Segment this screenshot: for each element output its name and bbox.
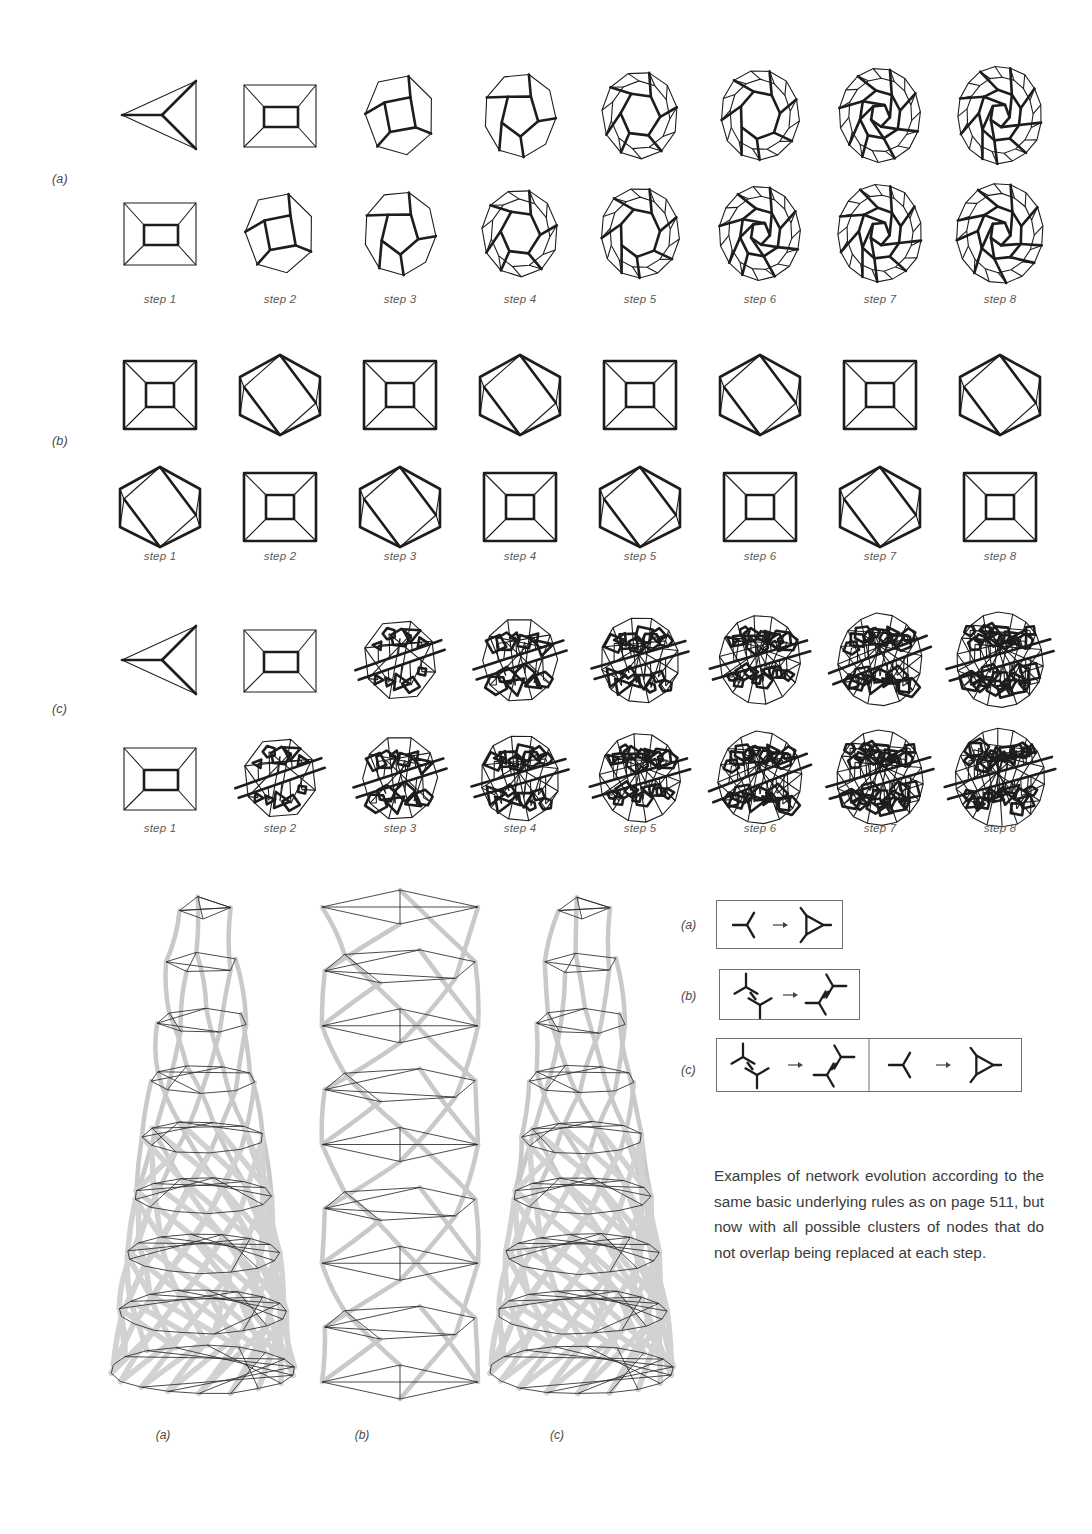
step-label: step 3 [340, 550, 460, 562]
rule-label-b: (b) [681, 989, 696, 1003]
network-cell [940, 173, 1060, 293]
step-label: step 8 [940, 550, 1060, 562]
column-label-b: (b) [322, 1428, 402, 1442]
step-label: step 5 [580, 293, 700, 305]
network-cell [820, 600, 940, 720]
evolution-row-b: step 1step 2step 3step 4step 5step 6step… [100, 335, 1060, 565]
evolution-row-a: step 1step 2step 3step 4step 5step 6step… [100, 55, 1060, 295]
step-label: step 2 [220, 550, 340, 562]
row-label-a: (a) [52, 172, 68, 186]
step-label: step 5 [580, 822, 700, 834]
network-cell [820, 335, 940, 455]
network-cell [340, 600, 460, 720]
step-labels-c: step 1step 2step 3step 4step 5step 6step… [100, 822, 1060, 838]
step-label: step 4 [460, 293, 580, 305]
network-cell [700, 718, 820, 838]
network-cell [460, 173, 580, 293]
network-cell [460, 335, 580, 455]
step-label: step 6 [700, 550, 820, 562]
network-cell [220, 600, 340, 720]
network-cell [700, 335, 820, 455]
network-cell [700, 173, 820, 293]
network-cell [940, 447, 1060, 567]
network-cell [220, 55, 340, 175]
network-cell [340, 55, 460, 175]
network-cell [100, 718, 220, 838]
network-cell [220, 447, 340, 567]
network-cell [220, 718, 340, 838]
rule-box-c[interactable] [716, 1038, 1022, 1092]
network-cell [700, 447, 820, 567]
network-cell [460, 447, 580, 567]
rule-label-c: (c) [681, 1063, 696, 1077]
network-cell [820, 447, 940, 567]
step-label: step 1 [100, 822, 220, 834]
network-cell [940, 335, 1060, 455]
network-cell [460, 600, 580, 720]
evolution-grid-b [100, 335, 1060, 565]
step-label: step 7 [820, 293, 940, 305]
step-label: step 4 [460, 550, 580, 562]
network-cell [580, 335, 700, 455]
network-cell [100, 335, 220, 455]
rule-box-a[interactable] [716, 900, 843, 949]
step-label: step 3 [340, 293, 460, 305]
network-cell [940, 55, 1060, 175]
evolution-grid-c [100, 600, 1060, 840]
network-cell [580, 718, 700, 838]
step-label: step 8 [940, 293, 1060, 305]
network-cell [340, 718, 460, 838]
step-label: step 7 [820, 550, 940, 562]
evolution-grid-a [100, 55, 1060, 295]
step-label: step 5 [580, 550, 700, 562]
step-label: step 2 [220, 822, 340, 834]
column-label-a: (a) [123, 1428, 203, 1442]
step-label: step 2 [220, 293, 340, 305]
network-cell [820, 718, 940, 838]
network-cell [700, 600, 820, 720]
rule-box-b[interactable] [719, 969, 860, 1020]
step-label: step 3 [340, 822, 460, 834]
network-cell [100, 600, 220, 720]
step-label: step 8 [940, 822, 1060, 834]
network-cell [700, 55, 820, 175]
page-canvas: (a) step 1step 2step 3step 4step 5step 6… [0, 0, 1092, 1534]
step-label: step 1 [100, 293, 220, 305]
step-labels-a: step 1step 2step 3step 4step 5step 6step… [100, 293, 1060, 309]
network-cell [220, 335, 340, 455]
step-label: step 6 [700, 293, 820, 305]
network-cell [100, 173, 220, 293]
network-cell [820, 55, 940, 175]
network-cell [940, 718, 1060, 838]
network-cell [100, 447, 220, 567]
network-cell [340, 447, 460, 567]
row-label-c: (c) [52, 702, 67, 716]
step-label: step 6 [700, 822, 820, 834]
network-cell [580, 55, 700, 175]
network-cell [460, 55, 580, 175]
network-cell [580, 600, 700, 720]
network-cell [940, 600, 1060, 720]
spacetime-column-b [300, 885, 500, 1420]
column-label-c: (c) [517, 1428, 597, 1442]
network-cell [220, 173, 340, 293]
network-cell [340, 173, 460, 293]
figure-caption: Examples of network evolution according … [714, 1163, 1044, 1265]
network-cell [580, 447, 700, 567]
step-label: step 4 [460, 822, 580, 834]
rule-label-a: (a) [681, 918, 696, 932]
step-label: step 1 [100, 550, 220, 562]
step-labels-b: step 1step 2step 3step 4step 5step 6step… [100, 550, 1060, 566]
network-cell [580, 173, 700, 293]
spacetime-column-a [108, 885, 298, 1420]
row-label-b: (b) [52, 434, 68, 448]
spacetime-column-c [487, 885, 677, 1420]
network-cell [340, 335, 460, 455]
step-label: step 7 [820, 822, 940, 834]
evolution-row-c: step 1step 2step 3step 4step 5step 6step… [100, 600, 1060, 840]
network-cell [100, 55, 220, 175]
network-cell [460, 718, 580, 838]
network-cell [820, 173, 940, 293]
